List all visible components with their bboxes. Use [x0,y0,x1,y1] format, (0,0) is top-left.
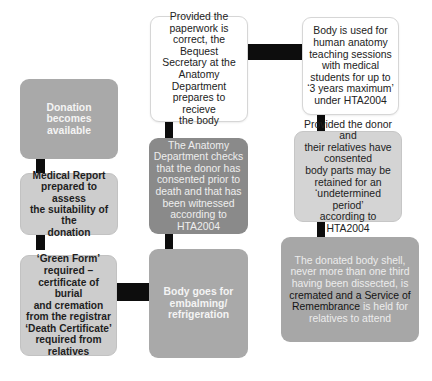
node-cremation: The donated body shell, never more than … [281,237,419,342]
node-bequest-secretary: Provided the paperwork is correct, the B… [150,16,248,122]
node-text: Body is used for human anatomy teaching … [307,25,394,106]
node-teaching-sessions: Body is used for human anatomy teaching … [302,17,399,115]
connector-bequest-to-teaching [247,44,303,60]
node-green-form: ‘Green Form’ required – certificate of b… [20,255,117,356]
cremation-text-part1: The donated body shell, never more than … [290,255,409,289]
node-medical-report: Medical Report prepared to assess the su… [20,173,118,235]
connector-greenform-to-embalming [117,283,150,301]
node-anatomy-checks: The Anatomy Department checks that the d… [149,138,248,234]
node-text: The donated body shell, never more than … [289,255,410,325]
node-text: Provided the donor and their relatives h… [299,119,397,235]
node-text: Medical Report prepared to assess the su… [25,170,113,238]
connector-embalming-to-checks [165,233,173,250]
node-text: Body goes for embalming/ refrigeration [164,286,234,321]
donation-flowchart: Donation becomes available Medical Repor… [0,0,432,381]
node-text: Donation becomes available [24,102,114,137]
node-text: The Anatomy Department checks that the d… [153,140,244,233]
node-text: ‘Green Form’ required – certificate of b… [25,253,112,357]
node-text: Provided the paperwork is correct, the B… [155,11,243,127]
node-donation-available: Donation becomes available [20,79,118,159]
node-body-parts-retained: Provided the donor and their relatives h… [294,131,402,222]
node-body-embalming: Body goes for embalming/ refrigeration [149,249,248,358]
